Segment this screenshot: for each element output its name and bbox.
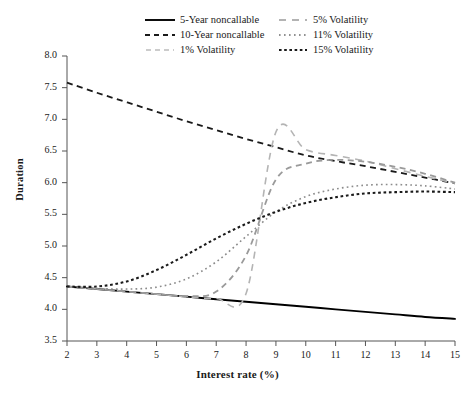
chart-plot-area: [0, 0, 475, 399]
series-line-5-volatility: [67, 160, 455, 296]
chart-series-lines: [67, 83, 455, 319]
series-line-11-volatility: [67, 185, 455, 290]
series-line-10-year-noncallable: [67, 83, 455, 184]
axis-lines: [67, 56, 455, 341]
series-line-1-volatility: [67, 124, 455, 307]
chart-figure: 5-Year noncallable 5% Volatility 10-Year…: [0, 0, 475, 399]
